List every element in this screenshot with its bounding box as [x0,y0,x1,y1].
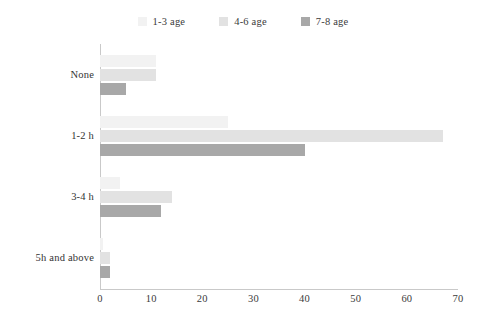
y-axis-category-label: 3-4 h [2,191,94,203]
y-axis-category-label: 1-2 h [2,130,94,142]
x-axis-tick-label: 20 [197,292,208,306]
bar-row [100,55,470,67]
bar-row [100,144,470,156]
bar-7-8-age[interactable] [100,266,110,278]
bar-row [100,116,470,128]
bar-group: 3-4 h [0,167,486,228]
chart-legend: 1-3 age 4-6 age 7-8 age [0,16,486,27]
bar-1-3-age[interactable] [100,238,103,250]
bar-row [100,177,470,189]
bar-row [100,252,470,264]
legend-label-1-3-age: 1-3 age [153,16,186,27]
x-axis-tick-label: 40 [299,292,310,306]
bar-7-8-age[interactable] [100,205,161,217]
legend-swatch-4-6-age [219,17,228,26]
bar-4-6-age[interactable] [100,191,172,203]
bar-stack [100,116,470,156]
bar-7-8-age[interactable] [100,83,126,95]
bar-4-6-age[interactable] [100,69,156,81]
bar-group: 1-2 h [0,105,486,166]
legend-label-4-6-age: 4-6 age [234,16,267,27]
bar-row [100,238,470,250]
legend-swatch-1-3-age [138,17,147,26]
x-axis-tick-label: 10 [146,292,157,306]
legend-item-4-6-age[interactable]: 4-6 age [219,16,267,27]
x-axis-tick-label: 60 [401,292,412,306]
legend-swatch-7-8-age [301,17,310,26]
bar-groups: None1-2 h3-4 h5h and above [0,44,486,289]
plot-area: None1-2 h3-4 h5h and above 0102030405060… [0,44,486,331]
bar-1-3-age[interactable] [100,55,156,67]
x-axis-tick-labels: 010203040506070 [0,292,486,310]
bar-1-3-age[interactable] [100,177,120,189]
x-axis-tick-label: 70 [453,292,464,306]
bar-row [100,191,470,203]
bar-row [100,205,470,217]
bar-4-6-age[interactable] [100,130,443,142]
y-axis-category-label: None [2,69,94,81]
bar-4-6-age[interactable] [100,252,110,264]
x-axis-line [100,289,458,290]
x-axis-tick-label: 30 [248,292,259,306]
x-axis-tick-label: 50 [350,292,361,306]
legend-item-7-8-age[interactable]: 7-8 age [301,16,349,27]
bar-group: 5h and above [0,228,486,289]
y-axis-category-label: 5h and above [2,252,94,264]
bar-stack [100,55,470,95]
bar-stack [100,177,470,217]
bar-group: None [0,44,486,105]
bar-1-3-age[interactable] [100,116,228,128]
bar-row [100,130,470,142]
legend-item-1-3-age[interactable]: 1-3 age [138,16,186,27]
x-axis-tick-label: 0 [97,292,102,306]
bar-row [100,83,470,95]
bar-7-8-age[interactable] [100,144,305,156]
bar-chart: 1-3 age 4-6 age 7-8 age None1-2 h3-4 h5h… [0,0,486,331]
legend-label-7-8-age: 7-8 age [316,16,349,27]
bar-row [100,69,470,81]
bar-row [100,266,470,278]
bar-stack [100,238,470,278]
